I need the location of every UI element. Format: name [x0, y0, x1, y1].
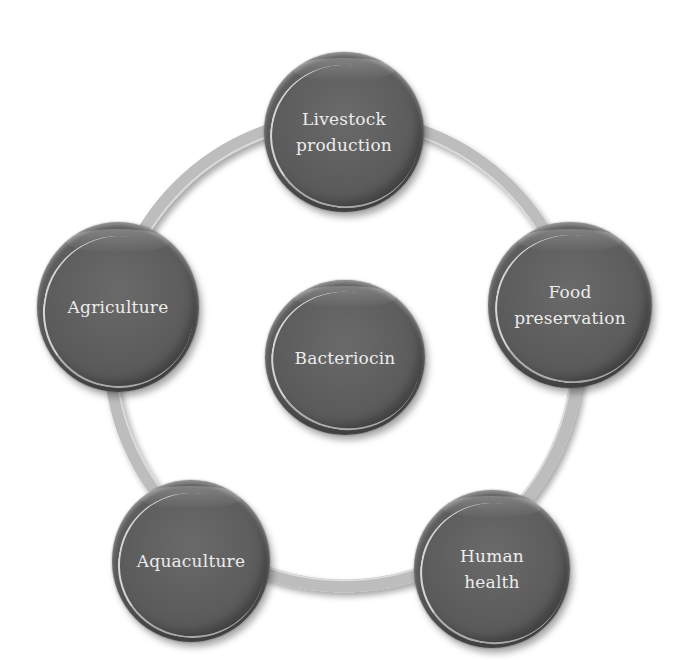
node-aquaculture: Aquaculture — [112, 480, 270, 642]
node-bacteriocin-center: Bacteriocin — [265, 280, 425, 435]
node-label: Human health — [460, 543, 524, 595]
node-human-health: Human health — [414, 490, 570, 648]
node-label: Food preservation — [514, 279, 626, 331]
node-label: Agriculture — [68, 294, 169, 320]
node-label: Aquaculture — [137, 548, 245, 574]
node-agriculture: Agriculture — [37, 222, 199, 392]
bacteriocin-applications-diagram: Livestock production Food preservation H… — [0, 0, 682, 660]
node-label: Livestock production — [296, 106, 392, 158]
node-food-preservation: Food preservation — [488, 222, 652, 388]
center-label: Bacteriocin — [295, 345, 396, 371]
node-livestock-production: Livestock production — [264, 52, 424, 212]
